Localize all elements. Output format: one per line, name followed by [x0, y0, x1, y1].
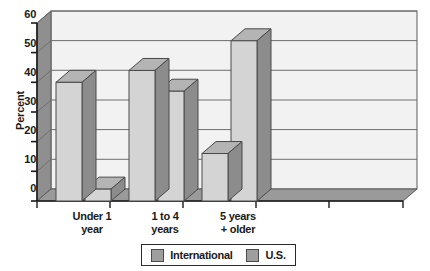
legend-swatch-us [246, 249, 259, 262]
x-axis-ticks [37, 201, 403, 208]
x-tick-label-group-2-line-1: + older [202, 223, 274, 236]
bar-0-international-side-face [82, 70, 96, 201]
bar-1-international [129, 58, 169, 201]
legend-item-us: U.S. [246, 249, 285, 262]
legend-swatch-international [151, 249, 164, 262]
legend-label-international: International [170, 249, 232, 261]
bar-2-international-front-face [202, 154, 228, 201]
x-tick-label-group-2-line-0: 5 years [202, 210, 274, 223]
x-tick-label-group-1-line-0: 1 to 4 [129, 210, 201, 223]
x-tick-label-group-1-line-1: years [129, 223, 201, 236]
y-axis-ticks [31, 23, 37, 201]
bar-2-international [202, 142, 242, 201]
bar-1-international-front-face [129, 70, 155, 201]
bar-0-international [56, 70, 96, 201]
bar-chart: Percent 60 50 40 30 20 10 0 [0, 0, 430, 271]
bar-0-international-front-face [56, 82, 82, 201]
x-tick-label-group-2: 5 years + older [202, 210, 274, 236]
x-tick-label-group-0: Under 1 year [56, 210, 128, 236]
bar-1-us-side-face [184, 79, 198, 201]
x-tick-label-group-0-line-1: year [56, 223, 128, 236]
bar-2-us-side-face [257, 29, 271, 201]
legend-label-us: U.S. [265, 249, 285, 261]
bar-1-international-side-face [155, 58, 169, 201]
legend-item-international: International [151, 249, 232, 262]
x-tick-label-group-0-line-0: Under 1 [56, 210, 128, 223]
chart-legend: International U.S. [141, 244, 296, 266]
x-tick-label-group-1: 1 to 4 years [129, 210, 201, 236]
